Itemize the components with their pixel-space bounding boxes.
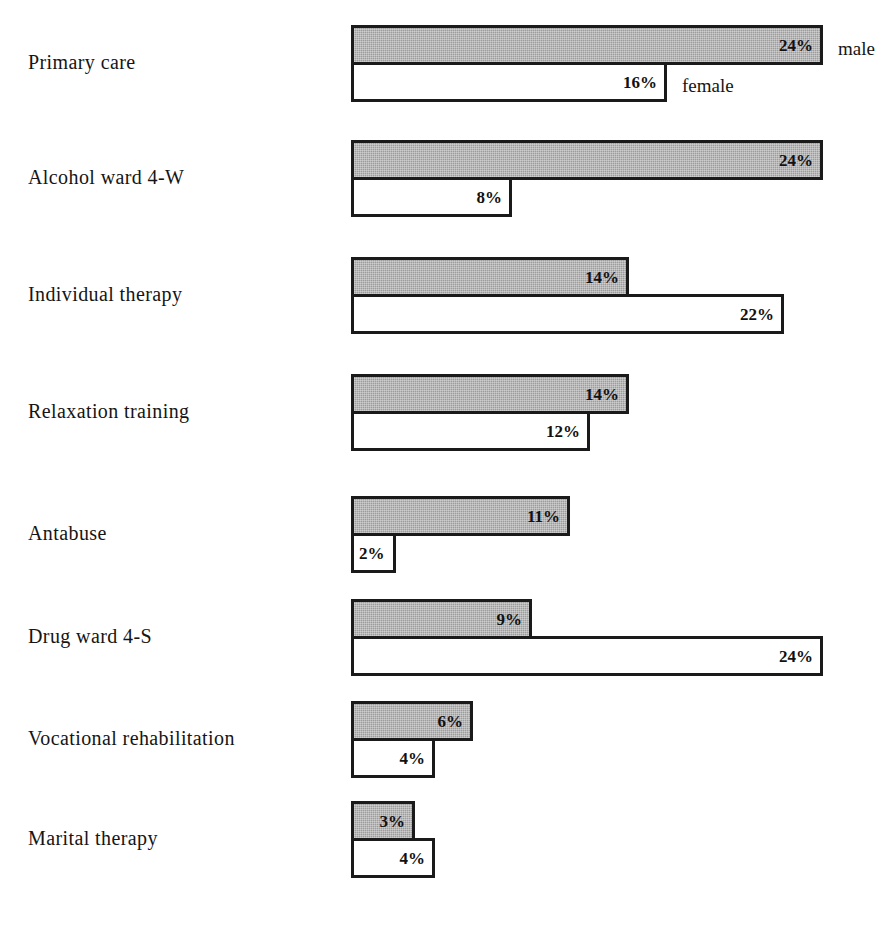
bar-male[interactable]: 6% [351,701,473,741]
bar-male[interactable]: 14% [351,374,629,414]
bar-pair: 9%24% [351,599,823,676]
bar-value-female: 2% [359,545,385,562]
bar-female[interactable]: 2% [351,533,396,573]
category-label: Alcohol ward 4-W [28,166,328,188]
legend-label-male: male [838,39,875,58]
bar-value-female: 4% [400,750,426,767]
bar-pair: 3%4% [351,801,435,878]
bar-male[interactable]: 3% [351,801,415,841]
bar-value-female: 8% [477,189,503,206]
legend-label-female: female [682,76,734,95]
bar-male[interactable]: 24%male [351,25,823,65]
bar-female[interactable]: 16%female [351,62,667,102]
bar-value-male: 9% [497,611,523,628]
category-label: Relaxation training [28,400,328,422]
bar-value-female: 4% [400,850,426,867]
bar-female[interactable]: 4% [351,838,435,878]
bar-female[interactable]: 4% [351,738,435,778]
bar-pair: 24%male16%female [351,25,823,102]
category-label: Drug ward 4-S [28,625,328,647]
bar-pair: 11%2% [351,496,570,573]
bar-value-male: 6% [438,713,464,730]
bar-value-female: 24% [779,648,813,665]
bar-value-male: 24% [779,152,813,169]
bar-male[interactable]: 24% [351,140,823,180]
bar-value-male: 11% [527,508,560,525]
bar-female[interactable]: 22% [351,294,784,334]
bar-pair: 6%4% [351,701,473,778]
category-label: Antabuse [28,522,328,544]
bar-male[interactable]: 11% [351,496,570,536]
bar-value-male: 14% [585,386,619,403]
bar-value-male: 14% [585,269,619,286]
bar-value-female: 16% [623,74,657,91]
category-label: Primary care [28,51,328,73]
bar-pair: 24%8% [351,140,823,217]
category-label: Individual therapy [28,283,328,305]
bar-value-male: 3% [380,813,406,830]
bar-value-male: 24% [779,37,813,54]
horizontal-bar-chart: Primary care24%male16%femaleAlcohol ward… [0,0,894,948]
category-label: Marital therapy [28,827,328,849]
bar-pair: 14%12% [351,374,629,451]
bar-value-female: 12% [546,423,580,440]
category-label: Vocational rehabilitation [28,727,328,749]
bar-male[interactable]: 14% [351,257,629,297]
bar-female[interactable]: 12% [351,411,590,451]
bar-female[interactable]: 8% [351,177,512,217]
bar-pair: 14%22% [351,257,784,334]
bar-female[interactable]: 24% [351,636,823,676]
bar-value-female: 22% [740,306,774,323]
bar-male[interactable]: 9% [351,599,532,639]
